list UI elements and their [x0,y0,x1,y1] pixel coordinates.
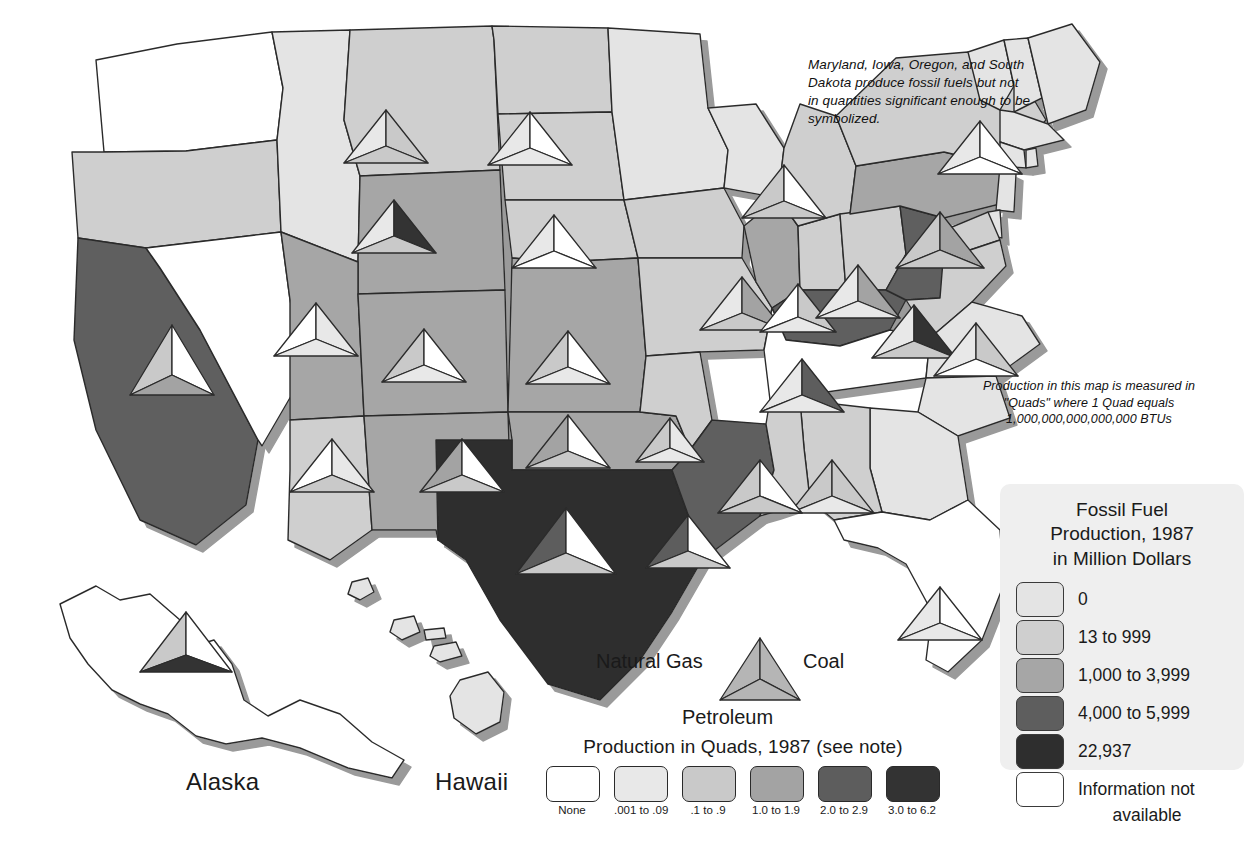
value-legend-swatch [1016,582,1064,617]
quads-legend-item: 3.0 to 6.2 [886,766,938,816]
value-legend-panel: Fossil Fuel Production, 1987 in Million … [1000,484,1244,770]
value-legend-row: 0 [1000,581,1244,619]
state-hawaii-molokai [424,628,446,640]
map-canvas: Maryland, Iowa, Oregon, and South Dakota… [0,0,1259,846]
note-quad-definition: Production in this map is measured in "Q… [958,378,1220,428]
state-idaho [272,30,360,262]
value-legend-row: 13 to 999 [1000,619,1244,657]
value-legend-title-line-2: Production, 1987 [1006,522,1238,546]
value-legend-title-line-1: Fossil Fuel [1006,498,1238,522]
quads-legend-swatches: None.001 to .09.1 to .91.0 to 1.92.0 to … [520,766,960,816]
fuel-key-label-coal: Coal [803,650,844,673]
quads-legend-label: 1.0 to 1.9 [750,804,802,816]
quads-legend-item: .1 to .9 [682,766,734,816]
value-legend-label: 4,000 to 5,999 [1078,703,1190,724]
value-legend-swatch [1016,658,1064,693]
fuel-key-label-petroleum: Petroleum [682,706,773,729]
fuel-symbol-key: Natural Gas Coal Petroleum [596,628,896,738]
state-hawaii-maui [430,642,462,662]
state-hawaii-kauai [348,578,374,600]
inset-label-alaska: Alaska [186,768,259,796]
value-legend-rows: 013 to 9991,000 to 3,9994,000 to 5,99922… [1000,581,1244,771]
quads-legend-item: .001 to .09 [614,766,666,816]
value-legend-title: Fossil Fuel Production, 1987 in Million … [1006,498,1238,571]
value-legend-label: 1,000 to 3,999 [1078,665,1190,686]
value-legend-swatch [1016,734,1064,769]
quads-legend-label: .001 to .09 [614,804,666,816]
value-legend-label-no-data-line-2: available [1050,805,1244,826]
value-legend-swatch [1016,696,1064,731]
state-alaska [60,586,404,778]
inset-label-hawaii: Hawaii [435,768,508,796]
value-legend-label: 0 [1078,589,1088,610]
state-hawaii-bigisland [450,672,504,734]
quads-legend-label: 2.0 to 2.9 [818,804,870,816]
quads-legend-item: 2.0 to 2.9 [818,766,870,816]
state-indiana [798,214,846,290]
quads-legend-swatch [614,766,668,802]
value-legend-label: 22,937 [1078,741,1132,762]
quads-legend-swatch [682,766,736,802]
state-oregon [72,140,281,248]
quads-legend-item: None [546,766,598,816]
value-legend-swatch [1016,620,1064,655]
value-legend-label: 13 to 999 [1078,627,1151,648]
quads-legend-item: 1.0 to 1.9 [750,766,802,816]
state-hawaii-oahu [390,616,420,640]
value-legend-swatch-no-data [1016,772,1064,807]
quads-legend-swatch [818,766,872,802]
value-legend-row: 1,000 to 3,999 [1000,657,1244,695]
value-legend-label-no-data-line-1: Information not [1078,779,1195,800]
state-northdakota [492,26,612,114]
quads-legend-swatch [546,766,600,802]
state-iowa [624,188,744,258]
quads-legend-title: Production in Quads, 1987 (see note) [526,736,960,758]
note-small-producers: Maryland, Iowa, Oregon, and South Dakota… [808,56,1033,128]
value-legend-row-no-data: Information not available [1000,771,1244,826]
state-minnesota [608,28,728,200]
quads-legend-label: 3.0 to 6.2 [886,804,938,816]
quads-legend-label: None [546,804,598,816]
value-legend-title-line-3: in Million Dollars [1006,547,1238,571]
quads-legend-swatch [886,766,940,802]
state-kansas [508,258,646,412]
state-washington [96,32,283,152]
fuel-key-label-natural-gas: Natural Gas [596,650,703,673]
quads-legend-label: .1 to .9 [682,804,734,816]
state-rhodeisland [1026,148,1038,168]
fuel-key-triangle-icon [714,632,806,706]
quads-legend: Production in Quads, 1987 (see note) Non… [520,736,960,816]
value-legend-row: 4,000 to 5,999 [1000,695,1244,733]
quads-legend-swatch [750,766,804,802]
value-legend-row: 22,937 [1000,733,1244,771]
